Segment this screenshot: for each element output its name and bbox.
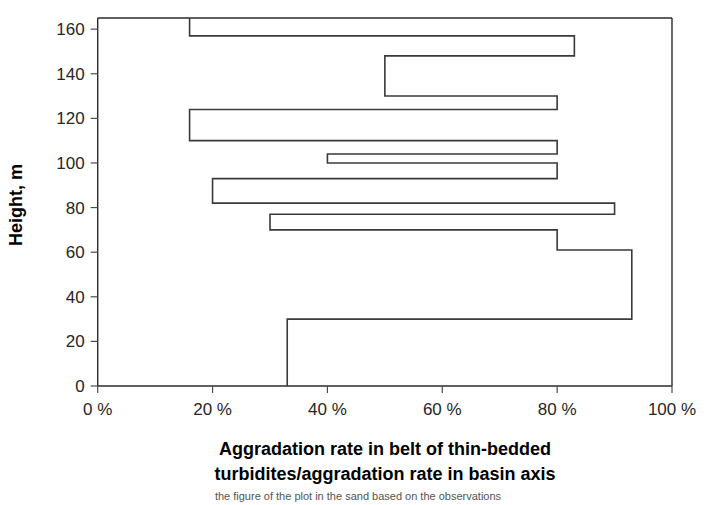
y-tick-label: 40 xyxy=(66,288,85,307)
y-tick-label: 160 xyxy=(56,20,84,39)
x-tick-label: 60 % xyxy=(423,400,462,419)
y-tick-label: 120 xyxy=(56,109,84,128)
y-tick-label: 20 xyxy=(66,332,85,351)
x-axis-title-line2: turbidites/aggradation rate in basin axi… xyxy=(214,464,555,484)
y-tick-label: 60 xyxy=(66,243,85,262)
page-caption: the figure of the plot in the sand based… xyxy=(215,490,502,502)
aggradation-step-line xyxy=(190,18,632,386)
x-tick-label: 40 % xyxy=(308,400,347,419)
y-axis-title: Height, m xyxy=(6,164,26,246)
y-tick-label: 140 xyxy=(56,65,84,84)
y-tick-label: 80 xyxy=(66,199,85,218)
x-tick-label: 20 % xyxy=(193,400,232,419)
y-tick-label: 100 xyxy=(56,154,84,173)
y-axis-ticks: 020406080100120140160 xyxy=(56,20,97,396)
x-tick-label: 100 % xyxy=(648,400,696,419)
x-tick-label: 80 % xyxy=(538,400,577,419)
x-axis-ticks: 0 %20 %40 %60 %80 %100 % xyxy=(83,386,696,419)
step-chart: 020406080100120140160 0 %20 %40 %60 %80 … xyxy=(0,0,717,505)
y-tick-label: 0 xyxy=(75,377,84,396)
x-axis-title-line1: Aggradation rate in belt of thin-bedded xyxy=(219,439,551,459)
figure-container: 020406080100120140160 0 %20 %40 %60 %80 … xyxy=(0,0,717,505)
x-tick-label: 0 % xyxy=(83,400,112,419)
